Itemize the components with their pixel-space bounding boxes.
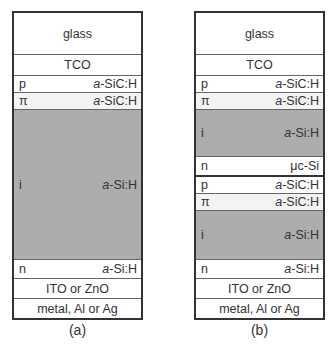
layer-label: glass xyxy=(196,27,323,41)
layer-type: i xyxy=(201,126,204,140)
layer-glass: glass xyxy=(14,13,141,55)
layer-i-bottom: i a-Si:H xyxy=(196,211,323,260)
layer-pi: π a-SiC:H xyxy=(14,93,141,110)
layer-label: metal, Al or Ag xyxy=(196,302,323,316)
layer-n: n a-Si:H xyxy=(14,260,141,279)
layer-pi-top: π a-SiC:H xyxy=(196,93,323,110)
layer-material: a-Si:H xyxy=(102,262,137,276)
layer-p-top: p a-SiC:H xyxy=(196,76,323,93)
layer-label: ITO or ZnO xyxy=(196,282,323,296)
layer-material: a-Si:H xyxy=(102,178,137,192)
layer-type: p xyxy=(201,178,208,192)
layer-type: n xyxy=(201,159,208,173)
layer-ito: ITO or ZnO xyxy=(196,279,323,299)
layer-tco: TCO xyxy=(14,55,141,76)
layer-metal: metal, Al or Ag xyxy=(14,299,141,318)
layer-type: p xyxy=(19,77,26,91)
layer-type: π xyxy=(201,94,210,108)
layer-i: i a-Si:H xyxy=(14,110,141,260)
caption-a: (a) xyxy=(12,322,143,338)
layer-material: a-SiC:H xyxy=(275,94,319,108)
layer-type: i xyxy=(19,178,22,192)
layer-type: i xyxy=(201,228,204,242)
layer-material: a-Si:H xyxy=(284,126,319,140)
layer-label: TCO xyxy=(196,58,323,72)
solar-cell-stack-b: glass TCO p a-SiC:H π a-SiC:H i a-Si:H n… xyxy=(194,11,325,320)
layer-material: a-SiC:H xyxy=(275,195,319,209)
layer-material: a-SiC:H xyxy=(93,77,137,91)
layer-label: TCO xyxy=(14,58,141,72)
layer-label: glass xyxy=(14,27,141,41)
layer-material: a-Si:H xyxy=(284,228,319,242)
layer-glass: glass xyxy=(196,13,323,55)
layer-n-bottom: n a-Si:H xyxy=(196,260,323,279)
layer-n-top: n μc-Si xyxy=(196,157,323,177)
layer-material: a-SiC:H xyxy=(275,77,319,91)
layer-material: a-Si:H xyxy=(284,262,319,276)
layer-type: π xyxy=(201,195,210,209)
layer-material: a-SiC:H xyxy=(93,94,137,108)
layer-p: p a-SiC:H xyxy=(14,76,141,93)
layer-material: a-SiC:H xyxy=(275,178,319,192)
layer-material: μc-Si xyxy=(290,159,319,173)
layer-label: metal, Al or Ag xyxy=(14,302,141,316)
layer-type: π xyxy=(19,94,28,108)
layer-p-bottom: p a-SiC:H xyxy=(196,177,323,194)
layer-label: ITO or ZnO xyxy=(14,282,141,296)
layer-type: p xyxy=(201,77,208,91)
caption-b: (b) xyxy=(194,322,325,338)
layer-i-top: i a-Si:H xyxy=(196,110,323,157)
solar-cell-stack-a: glass TCO p a-SiC:H π a-SiC:H i a-Si:H n… xyxy=(12,11,143,320)
layer-tco: TCO xyxy=(196,55,323,76)
layer-type: n xyxy=(19,262,26,276)
layer-metal: metal, Al or Ag xyxy=(196,299,323,318)
layer-type: n xyxy=(201,262,208,276)
layer-ito: ITO or ZnO xyxy=(14,279,141,299)
layer-pi-bottom: π a-SiC:H xyxy=(196,194,323,211)
